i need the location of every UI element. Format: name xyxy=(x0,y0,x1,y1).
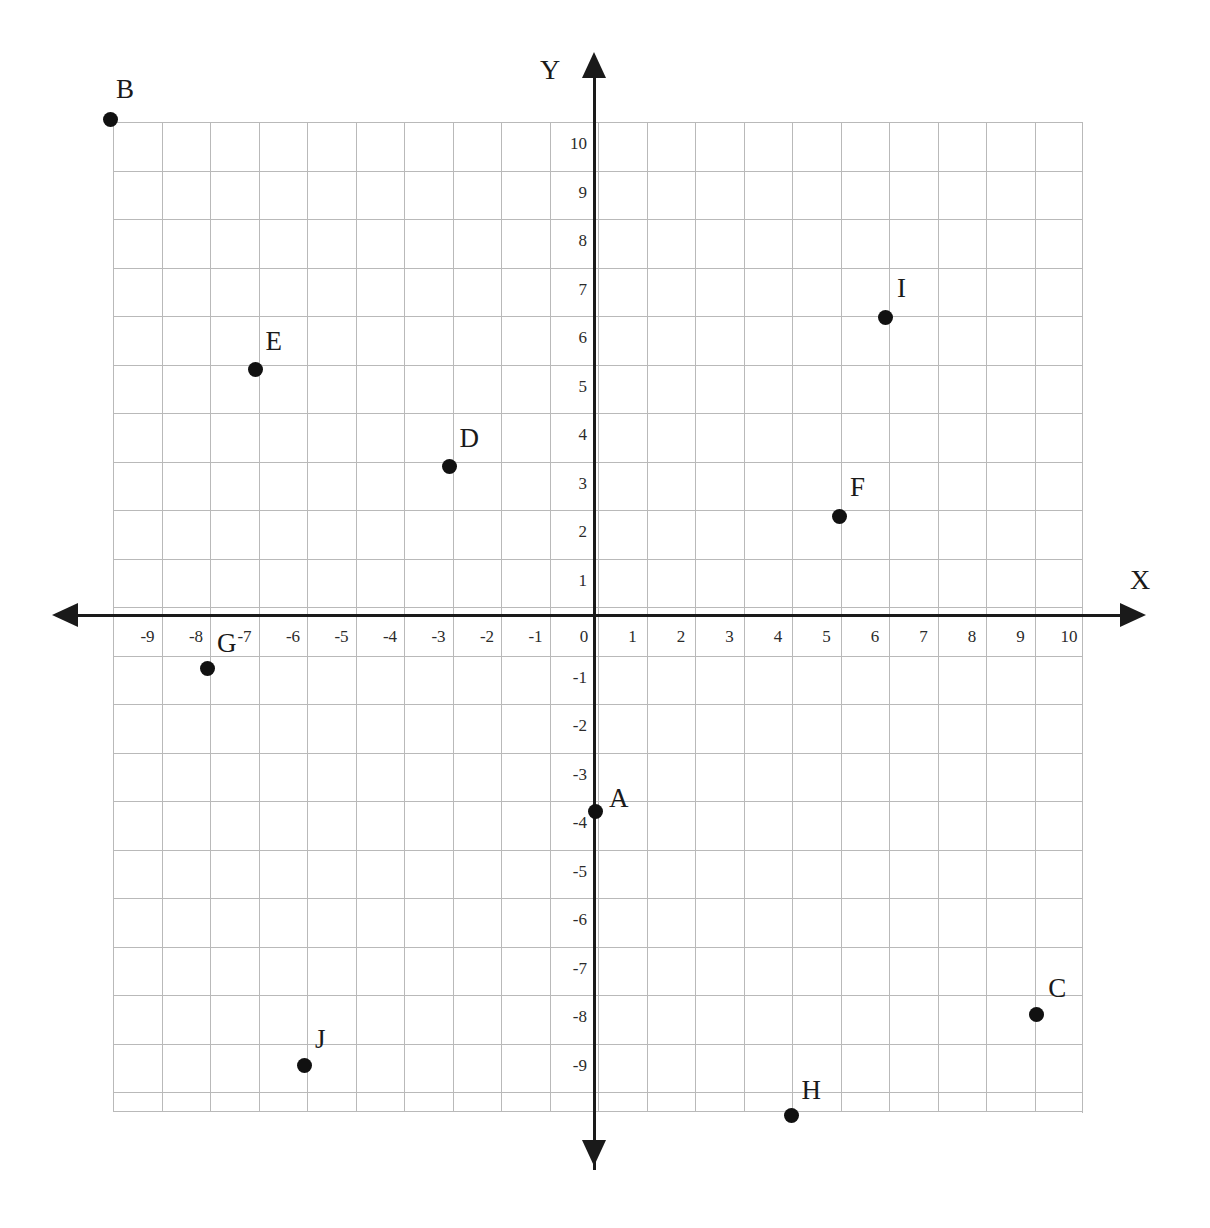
point-label-i: I xyxy=(897,275,906,302)
point-label-a: A xyxy=(609,785,629,812)
x-tick-label: 2 xyxy=(677,628,686,645)
y-axis-label: Y xyxy=(540,56,560,84)
x-tick-label: 8 xyxy=(968,628,977,645)
x-tick-label: -8 xyxy=(189,628,203,645)
point-label-c: C xyxy=(1048,975,1066,1002)
x-tick-label: -7 xyxy=(237,628,251,645)
grid-right-edge xyxy=(1082,122,1083,1113)
x-tick-label: 5 xyxy=(822,628,831,645)
x-tick-label: -3 xyxy=(431,628,445,645)
x-tick-label: 7 xyxy=(919,628,928,645)
plotted-point-a xyxy=(588,804,603,819)
x-tick-label: -2 xyxy=(480,628,494,645)
x-axis-line xyxy=(62,614,1134,617)
y-tick-label: 3 xyxy=(579,474,588,491)
y-tick-label: 7 xyxy=(579,280,588,297)
y-tick-label: 9 xyxy=(579,183,588,200)
x-tick-label: 9 xyxy=(1016,628,1025,645)
plotted-point-g xyxy=(200,661,215,676)
point-label-h: H xyxy=(801,1077,821,1104)
x-tick-label: -9 xyxy=(140,628,154,645)
point-label-f: F xyxy=(850,474,865,501)
y-tick-label: -3 xyxy=(573,765,587,782)
y-tick-label: -2 xyxy=(573,717,587,734)
y-axis-line xyxy=(593,70,596,1170)
y-tick-label: -6 xyxy=(573,911,587,928)
x-tick-label: 0 xyxy=(580,628,589,645)
arrow-left-icon xyxy=(52,603,78,627)
plotted-point-b xyxy=(103,112,118,127)
grid-background xyxy=(113,122,1083,1112)
point-label-g: G xyxy=(217,630,237,657)
y-tick-label: 6 xyxy=(579,329,588,346)
y-tick-label: 8 xyxy=(579,232,588,249)
coordinate-plane-figure: X Y -9-8-7-6-5-4-3-2-1012345678910 10987… xyxy=(0,0,1210,1228)
y-tick-label: 2 xyxy=(579,523,588,540)
x-tick-label: -6 xyxy=(286,628,300,645)
point-label-e: E xyxy=(266,328,283,355)
y-tick-label: 1 xyxy=(579,571,588,588)
y-tick-label: 10 xyxy=(570,135,587,152)
point-label-d: D xyxy=(460,425,480,452)
plotted-point-h xyxy=(784,1108,799,1123)
y-tick-label: -9 xyxy=(573,1056,587,1073)
x-tick-label: -1 xyxy=(528,628,542,645)
point-label-b: B xyxy=(116,76,134,103)
arrow-up-icon xyxy=(582,52,606,78)
x-tick-label: 6 xyxy=(871,628,880,645)
x-axis-label: X xyxy=(1130,566,1150,594)
point-label-j: J xyxy=(315,1026,326,1053)
x-tick-label: -4 xyxy=(383,628,397,645)
grid-bottom-edge xyxy=(113,1111,1083,1112)
y-tick-label: -1 xyxy=(573,668,587,685)
plotted-point-c xyxy=(1029,1007,1044,1022)
plotted-point-i xyxy=(878,310,893,325)
x-tick-label: 1 xyxy=(628,628,637,645)
y-tick-label: 4 xyxy=(579,426,588,443)
y-tick-label: -7 xyxy=(573,959,587,976)
arrow-right-icon xyxy=(1120,603,1146,627)
x-tick-label: 10 xyxy=(1061,628,1078,645)
arrow-down-icon xyxy=(582,1140,606,1166)
y-tick-label: -5 xyxy=(573,862,587,879)
x-tick-label: -5 xyxy=(334,628,348,645)
x-tick-label: 4 xyxy=(774,628,783,645)
x-tick-label: 3 xyxy=(725,628,734,645)
plotted-point-f xyxy=(832,509,847,524)
y-tick-label: 5 xyxy=(579,377,588,394)
y-tick-label: -8 xyxy=(573,1008,587,1025)
y-tick-label: -4 xyxy=(573,814,587,831)
